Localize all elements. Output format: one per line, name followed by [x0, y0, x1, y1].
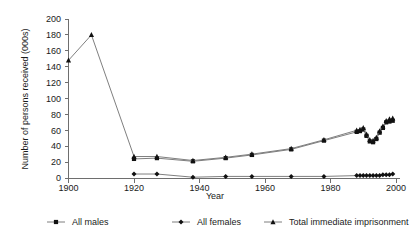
legend-label: Total immediate imprisonment	[289, 217, 409, 227]
legend-item[interactable]: Total immediate imprisonment	[264, 217, 409, 227]
y-axis-ticks: 020406080100120140160180200	[46, 14, 69, 183]
x-tick-label: 1900	[58, 183, 78, 193]
data-point	[154, 172, 159, 177]
y-tick-label: 180	[46, 30, 61, 40]
series-layer	[66, 32, 395, 180]
y-tick-label: 160	[46, 46, 61, 56]
legend-marker-diamond	[179, 220, 184, 225]
x-tick-label: 1980	[320, 183, 340, 193]
chart-container: Number of persons received (000s) 020406…	[0, 0, 412, 237]
data-point	[89, 32, 94, 37]
data-point	[390, 116, 395, 121]
y-axis-title: Number of persons received (000s)	[20, 28, 30, 169]
line-chart: Number of persons received (000s) 020406…	[0, 0, 412, 237]
y-axis-title-label: Number of persons received (000s)	[20, 28, 30, 169]
y-tick-label: 40	[51, 141, 61, 151]
y-tick-label: 200	[46, 14, 61, 24]
legend-label: All males	[72, 217, 109, 227]
y-tick-label: 140	[46, 62, 61, 72]
x-tick-label: 2000	[386, 183, 406, 193]
y-tick-label: 20	[51, 157, 61, 167]
x-tick-label: 1960	[255, 183, 275, 193]
y-tick-label: 80	[51, 110, 61, 120]
y-tick-label: 0	[56, 173, 61, 183]
y-tick-label: 120	[46, 78, 61, 88]
chart-legend: All malesAll femalesTotal immediate impr…	[47, 217, 409, 227]
x-axis-ticks: 190019201940196019802000	[58, 179, 406, 194]
series-line	[134, 174, 393, 177]
series-line	[69, 35, 393, 161]
data-series	[132, 119, 395, 164]
legend-marker-square	[54, 220, 58, 224]
data-series	[66, 32, 395, 163]
legend-item[interactable]: All males	[47, 217, 109, 227]
legend-label: All females	[197, 217, 242, 227]
y-tick-label: 100	[46, 94, 61, 104]
x-tick-label: 1920	[124, 183, 144, 193]
data-point	[132, 172, 137, 177]
legend-item[interactable]: All females	[172, 217, 242, 227]
x-axis-title-label: Year	[206, 191, 224, 201]
series-line	[134, 121, 393, 162]
y-tick-label: 60	[51, 126, 61, 136]
